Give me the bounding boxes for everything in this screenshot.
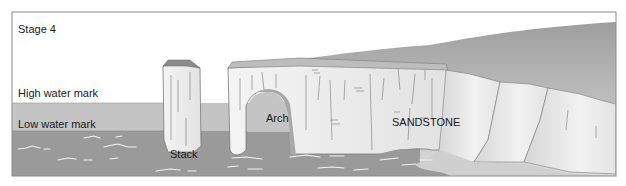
low-water-mark-label: Low water mark [18,119,96,130]
high-water-mark-label: High water mark [18,88,98,99]
stack-label: Stack [170,149,198,160]
arch-label: Arch [266,113,289,124]
stage-label: Stage 4 [18,24,56,35]
sandstone-label: SANDSTONE [392,117,460,128]
stack [163,64,201,152]
